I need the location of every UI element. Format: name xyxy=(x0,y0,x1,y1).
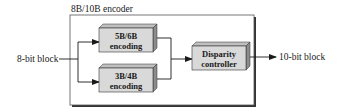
block-disparity-line1: Disparity xyxy=(202,49,237,59)
block-3b4b-line2: encoding xyxy=(110,81,143,91)
output-label: 10-bit block xyxy=(279,52,325,62)
input-label: 8-bit block xyxy=(17,54,59,64)
block-5b6b-line2: encoding xyxy=(110,41,143,51)
block-disparity-line2: controller xyxy=(201,59,237,69)
encoder-diagram: 8B/10B encoder 8-bit block 5B/6B encodin… xyxy=(0,0,337,112)
block-5b6b: 5B/6B encoding xyxy=(99,24,157,52)
block-5b6b-line1: 5B/6B xyxy=(115,31,138,41)
container-label: 8B/10B encoder xyxy=(71,4,134,14)
block-3b4b: 3B/4B encoding xyxy=(99,64,157,92)
block-disparity-controller: Disparity controller xyxy=(192,42,250,70)
block-3b4b-line1: 3B/4B xyxy=(115,71,138,81)
